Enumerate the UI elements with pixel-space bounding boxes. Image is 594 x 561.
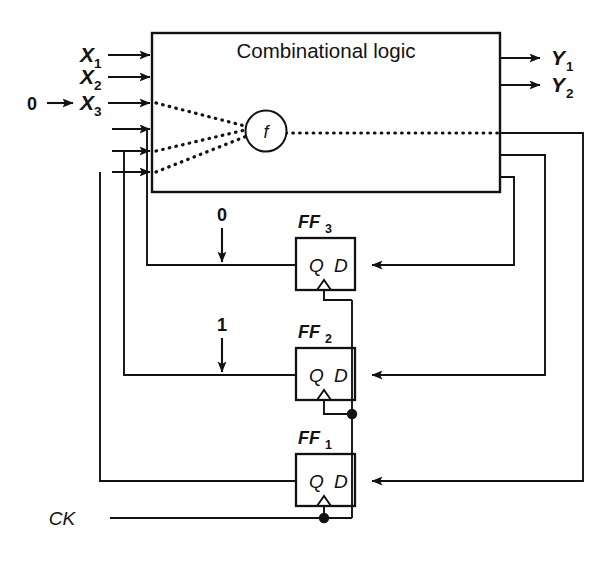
output-label-y1: Y xyxy=(551,46,567,69)
ff1-name-subscript: 1 xyxy=(325,438,332,452)
ff2-name: FF xyxy=(298,322,321,342)
clock-junction-dot-ff1 xyxy=(319,513,329,523)
state-value-ff2: 1 xyxy=(217,315,227,335)
ff1-d-label: D xyxy=(334,471,348,492)
ff3-q-label: Q xyxy=(309,255,324,276)
combinational-logic-label: Combinational logic xyxy=(237,39,416,62)
wire-ff1-q-to-logic xyxy=(100,172,296,481)
input-label-x1-subscript: 1 xyxy=(94,56,102,71)
state-value-ff3: 0 xyxy=(217,205,227,225)
clock-junction-dot-ff2 xyxy=(347,409,357,419)
clock-stub-ff3 xyxy=(324,290,352,300)
clock-label: CK xyxy=(49,508,77,529)
ff1-q-label: Q xyxy=(309,471,324,492)
ff3-name: FF xyxy=(298,212,321,232)
circuit-diagram: f Q D FF 3 Q D FF 2 Q D FF 1 xyxy=(0,0,594,561)
ff2-d-label: D xyxy=(334,365,348,386)
input-label-x3-subscript: 3 xyxy=(94,104,102,119)
ff3-name-subscript: 3 xyxy=(325,222,332,236)
input-label-x2-subscript: 2 xyxy=(94,78,102,93)
output-label-y2-subscript: 2 xyxy=(566,86,574,101)
circuit-canvas: f Q D FF 3 Q D FF 2 Q D FF 1 xyxy=(0,0,594,561)
ff2-name-subscript: 2 xyxy=(325,332,332,346)
ff3-d-label: D xyxy=(334,255,348,276)
ff2-q-label: Q xyxy=(309,365,324,386)
ff1-name: FF xyxy=(298,428,321,448)
input-value-x3: 0 xyxy=(27,94,37,114)
output-label-y1-subscript: 1 xyxy=(566,59,574,74)
output-label-y2: Y xyxy=(551,73,567,96)
